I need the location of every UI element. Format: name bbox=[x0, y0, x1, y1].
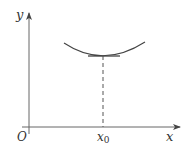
origin-label: O bbox=[17, 130, 27, 144]
function-curve bbox=[64, 42, 145, 56]
x0-label: x0 bbox=[97, 130, 110, 145]
diagram-canvas: y x O x0 bbox=[0, 0, 188, 151]
y-axis-label: y bbox=[15, 7, 24, 22]
x0-label-subscript: 0 bbox=[104, 135, 110, 145]
x-axis-label: x bbox=[166, 129, 174, 144]
